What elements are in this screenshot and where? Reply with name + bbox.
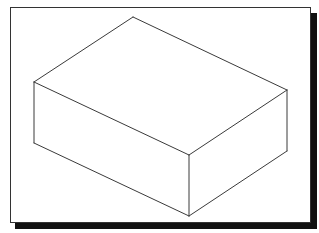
top-back-left-edge [34,17,133,82]
bottom-front-right-edge [189,151,287,216]
isometric-box-drawing [0,0,319,233]
bottom-front-left-edge [34,143,189,216]
top-back-right-edge [133,17,287,90]
top-front-right-edge [189,90,287,155]
diagram-canvas [0,0,319,233]
top-front-left-edge [34,82,189,155]
